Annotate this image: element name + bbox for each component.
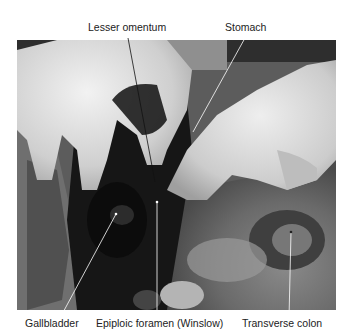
- label-gallbladder: Gallbladder: [25, 317, 79, 329]
- label-epiploic-foramen: Epiploic foramen (Winslow): [96, 317, 223, 329]
- label-lesser-omentum: Lesser omentum: [88, 21, 166, 33]
- label-transverse-colon: Transverse colon: [242, 317, 322, 329]
- dissection-photo: [17, 40, 336, 310]
- dissection-photo-image: [17, 40, 336, 310]
- label-stomach: Stomach: [225, 21, 266, 33]
